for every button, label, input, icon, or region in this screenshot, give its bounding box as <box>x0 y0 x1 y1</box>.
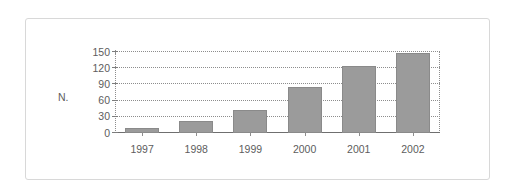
bar-group[interactable]: 2000 <box>278 52 332 133</box>
bar-group[interactable]: 2002 <box>386 52 440 133</box>
bar-chart: N. 0306090120150 19971998199920002001200… <box>0 0 516 196</box>
x-tick-mark <box>305 132 306 136</box>
bar-group[interactable]: 1999 <box>223 52 277 133</box>
bar-group[interactable]: 1997 <box>115 52 169 133</box>
bar[interactable] <box>233 110 267 133</box>
y-tick-label: 90 <box>98 79 110 90</box>
x-tick-label: 2000 <box>293 144 316 155</box>
x-tick-mark <box>250 132 251 136</box>
x-tick-mark <box>359 132 360 136</box>
bar-group[interactable]: 2001 <box>332 52 386 133</box>
y-axis-title: N. <box>58 92 69 103</box>
y-tick-label: 30 <box>98 112 110 123</box>
y-tick-label: 120 <box>92 63 110 74</box>
x-tick-label: 1998 <box>185 144 208 155</box>
x-tick-label: 2001 <box>347 144 370 155</box>
x-tick-mark <box>196 132 197 136</box>
x-tick-mark <box>413 132 414 136</box>
bar[interactable] <box>288 87 322 133</box>
x-tick-mark <box>142 132 143 136</box>
bar[interactable] <box>396 53 430 133</box>
x-tick-label: 2002 <box>401 144 424 155</box>
y-tick-label: 60 <box>98 95 110 106</box>
bars: 199719981999200020012002 <box>115 52 440 133</box>
x-tick-label: 1997 <box>130 144 153 155</box>
x-tick-label: 1999 <box>239 144 262 155</box>
bar[interactable] <box>342 66 376 134</box>
figure-root: N. 0306090120150 19971998199920002001200… <box>0 0 516 196</box>
plot-area: 0306090120150 199719981999200020012002 <box>115 52 440 133</box>
y-tick-label: 150 <box>92 47 110 58</box>
y-tick-label: 0 <box>104 128 110 139</box>
bar-group[interactable]: 1998 <box>169 52 223 133</box>
